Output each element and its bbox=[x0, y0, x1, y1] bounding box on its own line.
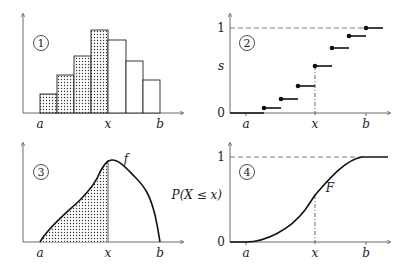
diagram-canvas: 1 a x b 2 1 s 0 a x b bbox=[0, 0, 405, 268]
svg-text:x: x bbox=[312, 117, 319, 131]
panel-4-cdf: 4 F 1 P(X ≤ x) 0 a x b bbox=[171, 143, 390, 260]
badge-1: 1 bbox=[38, 37, 45, 50]
svg-text:b: b bbox=[362, 246, 370, 260]
svg-text:0: 0 bbox=[217, 235, 225, 249]
svg-text:x: x bbox=[105, 117, 112, 131]
badge-3: 3 bbox=[38, 166, 45, 179]
svg-text:s: s bbox=[218, 59, 224, 73]
svg-text:x: x bbox=[105, 246, 112, 260]
svg-text:b: b bbox=[362, 117, 370, 131]
svg-text:b: b bbox=[156, 246, 164, 260]
svg-text:1: 1 bbox=[217, 21, 225, 35]
panel-2-step-cdf: 2 1 s 0 a x b bbox=[217, 14, 390, 131]
badge-2: 2 bbox=[244, 37, 251, 50]
svg-text:1: 1 bbox=[217, 150, 225, 164]
svg-text:f: f bbox=[123, 152, 131, 166]
panel-3-density: 3 f a x b bbox=[23, 143, 183, 260]
svg-text:b: b bbox=[156, 117, 164, 131]
svg-text:a: a bbox=[36, 246, 43, 260]
svg-text:a: a bbox=[242, 117, 249, 131]
svg-text:P(X ≤ x): P(X ≤ x) bbox=[171, 188, 223, 202]
svg-text:F: F bbox=[325, 181, 335, 195]
svg-text:0: 0 bbox=[217, 106, 225, 120]
svg-text:a: a bbox=[36, 117, 43, 131]
svg-text:x: x bbox=[312, 246, 319, 260]
badge-4: 4 bbox=[244, 166, 251, 179]
svg-text:a: a bbox=[242, 246, 249, 260]
panel-1-histogram: 1 a x b bbox=[23, 14, 183, 131]
